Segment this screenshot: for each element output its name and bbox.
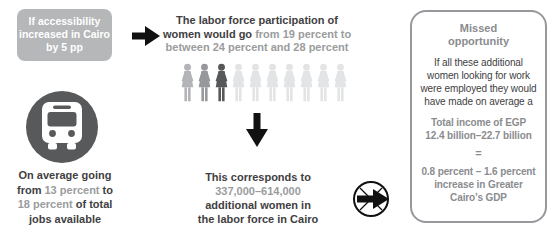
text-segment: the labor force in Cairo xyxy=(198,213,318,225)
caption-line: jobs available xyxy=(0,212,130,227)
condition-line: increased in Cairo xyxy=(17,28,112,41)
heading-line: women would go from 19 percent to xyxy=(157,28,357,42)
corresponds-caption: This corresponds to 337,000–614,000 addi… xyxy=(178,170,338,226)
panel-title: Missed opportunity xyxy=(416,22,541,48)
panel-title-line: opportunity xyxy=(416,35,541,48)
woman-figure-icon xyxy=(281,63,298,102)
woman-figure-icon xyxy=(264,63,281,102)
next-circle-arrow-icon xyxy=(351,179,391,219)
text-segment: from xyxy=(17,184,45,196)
panel-body-line: have made on average a xyxy=(416,95,541,108)
text-segment: between 24 percent and 28 percent xyxy=(166,41,349,53)
text-segment: jobs available xyxy=(29,213,101,225)
panel-total-line: Total income of EGP xyxy=(416,116,541,129)
bus-glyph xyxy=(26,91,98,163)
text-segment: women would go xyxy=(163,28,255,40)
panel-body-line: were employed they would xyxy=(416,82,541,95)
condition-line: by 5 pp xyxy=(17,41,112,54)
heading-line: The labor force participation of xyxy=(157,14,357,28)
text-segment: to xyxy=(100,184,113,196)
woman-figure-icon xyxy=(196,63,213,102)
woman-figure-icon xyxy=(315,63,332,102)
women-pictograph xyxy=(179,63,349,102)
caption-line: 18 percent of total xyxy=(0,197,130,212)
panel-body-line: If all these additional xyxy=(416,56,541,69)
text-segment: 337,000–614,000 xyxy=(215,185,301,197)
caption-line: from 13 percent to xyxy=(0,183,130,198)
woman-figure-icon xyxy=(213,63,230,102)
text-segment: 13 percent xyxy=(45,184,100,196)
woman-figure-icon xyxy=(247,63,264,102)
text-segment: On average going xyxy=(19,169,112,181)
infographic: If accessibility increased in Cairo by 5… xyxy=(0,0,552,238)
text-segment: of total xyxy=(73,198,113,210)
woman-figure-icon xyxy=(179,63,196,102)
heading-line: between 24 percent and 28 percent xyxy=(157,41,357,55)
caption-line: 337,000–614,000 xyxy=(178,184,338,198)
caption-line: additional women in xyxy=(178,198,338,212)
text-segment: from 19 percent to xyxy=(255,28,351,40)
jobs-caption: On average going from 13 percent to 18 p… xyxy=(0,168,130,226)
participation-heading: The labor force participation of women w… xyxy=(157,14,357,55)
equals-sign: = xyxy=(416,147,541,160)
condition-line: If accessibility xyxy=(17,15,112,28)
condition-box: If accessibility increased in Cairo by 5… xyxy=(17,9,112,61)
text-segment: This corresponds to xyxy=(205,171,311,183)
panel-gdp-increase: 0.8 percent – 1.6 percent increase in Gr… xyxy=(416,165,541,204)
arrow-down-icon xyxy=(246,113,268,147)
bus-icon xyxy=(26,91,98,163)
panel-gdp-line: Cairo’s GDP xyxy=(416,191,541,204)
missed-opportunity-panel: Missed opportunity If all these addition… xyxy=(410,10,547,223)
woman-figure-icon xyxy=(332,63,349,102)
text-segment: 18 percent xyxy=(18,198,73,210)
panel-gdp-line: 0.8 percent – 1.6 percent xyxy=(416,165,541,178)
panel-gdp-line: increase in Greater xyxy=(416,178,541,191)
text-segment: The labor force participation of xyxy=(176,14,338,26)
caption-line: the labor force in Cairo xyxy=(178,212,338,226)
panel-body-line: women looking for work xyxy=(416,69,541,82)
text-segment: additional women in xyxy=(205,199,311,211)
caption-line: On average going xyxy=(0,168,130,183)
caption-line: This corresponds to xyxy=(178,170,338,184)
arrow-right-icon xyxy=(132,26,160,46)
panel-body: If all these additional women looking fo… xyxy=(416,56,541,108)
panel-total-income: Total income of EGP 12.4 billion–22.7 bi… xyxy=(416,116,541,142)
panel-total-line: 12.4 billion–22.7 billion xyxy=(416,129,541,142)
panel-title-line: Missed xyxy=(416,22,541,35)
woman-figure-icon xyxy=(298,63,315,102)
woman-figure-icon xyxy=(230,63,247,102)
